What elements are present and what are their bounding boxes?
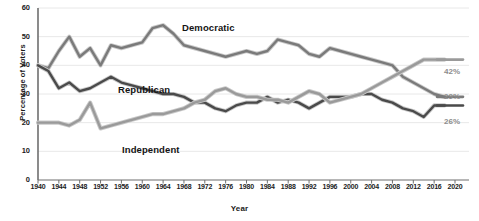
series-label-republican: Republican [118, 84, 170, 95]
series-line-republican [38, 65, 445, 117]
line-chart: Percentage of Voters Year 0102030405060 … [0, 0, 479, 221]
series-halo-republican [38, 65, 445, 117]
end-label-independent: 42% [444, 67, 460, 76]
x-axis-tick-label-2020: 2020 [440, 183, 470, 190]
series-label-independent: Independent [122, 144, 180, 155]
y-axis-tick-label-50: 50 [4, 32, 30, 41]
y-axis-tick-label-40: 40 [4, 60, 30, 69]
x-axis-title: Year [0, 204, 479, 213]
y-axis-tick-label-30: 30 [4, 89, 30, 98]
y-axis-tick-label-10: 10 [4, 146, 30, 155]
end-label-democratic: 29% [444, 92, 460, 101]
y-axis-tick-label-20: 20 [4, 118, 30, 127]
series-label-democratic: Democratic [182, 22, 235, 33]
y-axis-tick-label-60: 60 [4, 3, 30, 12]
end-label-republican: 26% [444, 117, 460, 126]
